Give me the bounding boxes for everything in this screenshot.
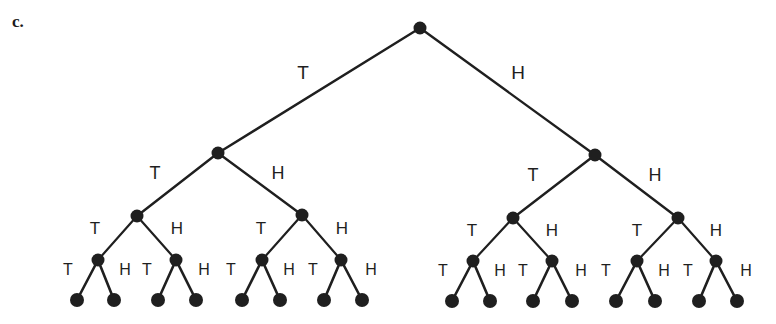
edge-label-h: H: [119, 262, 131, 278]
edge-label-t: T: [601, 263, 611, 279]
tree-edge: [473, 218, 513, 261]
tree-node: [672, 212, 685, 225]
tree-node: [296, 209, 309, 222]
tree-leaf-node: [692, 294, 706, 308]
tree-nodes: [70, 22, 744, 309]
tree-node: [589, 149, 602, 162]
tree-leaf-node: [273, 293, 287, 307]
tree-leaf-node: [355, 293, 369, 307]
tree-edge: [513, 155, 595, 218]
tree-node: [507, 212, 520, 225]
tree-edge: [218, 28, 420, 153]
tree-node: [710, 255, 723, 268]
tree-edge: [98, 216, 137, 260]
edge-label-t: T: [297, 63, 309, 82]
tree-leaf-node: [609, 294, 623, 308]
tree-leaf-node: [317, 293, 331, 307]
tree-node: [414, 22, 427, 35]
tree-edge: [218, 153, 302, 215]
edge-label-h: H: [511, 63, 525, 82]
edge-label-t: T: [528, 166, 539, 184]
tree-leaf-node: [189, 293, 203, 307]
tree-leaf-node: [483, 294, 497, 308]
edge-label-h: H: [171, 220, 183, 237]
edge-label-t: T: [308, 262, 318, 278]
edge-label-h: H: [649, 166, 662, 184]
edge-label-h: H: [198, 262, 210, 278]
tree-edge: [420, 28, 595, 155]
edge-label-t: T: [632, 222, 642, 239]
tree-leaf-node: [235, 293, 249, 307]
edge-label-t: T: [90, 220, 100, 237]
tree-node: [92, 254, 105, 267]
edge-label-t: T: [256, 220, 266, 237]
edge-label-t: T: [467, 222, 477, 239]
tree-leaf-node: [565, 294, 579, 308]
edge-label-t: T: [142, 262, 152, 278]
edge-label-t: T: [63, 262, 73, 278]
edge-label-h: H: [710, 222, 722, 239]
edge-label-t: T: [683, 263, 693, 279]
tree-leaf-node: [70, 293, 84, 307]
edge-label-h: H: [575, 263, 587, 279]
edge-label-h: H: [740, 263, 752, 279]
edge-label-h: H: [336, 220, 348, 237]
tree-leaf-node: [445, 294, 459, 308]
tree-leaf-node: [107, 293, 121, 307]
tree-node: [467, 255, 480, 268]
tree-leaf-node: [648, 294, 662, 308]
edge-label-t: T: [226, 262, 236, 278]
tree-leaf-node: [730, 294, 744, 308]
probability-tree-figure: c. THTHTHTHTHTHTHTHTHTHTHTHTHTHTH: [0, 0, 776, 324]
edge-label-h: H: [546, 222, 558, 239]
edge-label-h: H: [658, 263, 670, 279]
edge-label-h: H: [494, 263, 506, 279]
edge-label-t: T: [518, 263, 528, 279]
tree-node: [170, 254, 183, 267]
tree-edge: [595, 155, 678, 218]
tree-node: [546, 255, 559, 268]
tree-leaf-node: [151, 293, 165, 307]
tree-node: [631, 255, 644, 268]
edge-label-h: H: [365, 262, 377, 278]
tree-node: [131, 210, 144, 223]
edge-label-t: T: [438, 263, 448, 279]
tree-node: [256, 254, 269, 267]
edge-label-h: H: [272, 164, 285, 182]
edge-label-t: T: [150, 164, 161, 182]
edge-label-h: H: [283, 262, 295, 278]
tree-leaf-node: [526, 294, 540, 308]
tree-edge: [637, 218, 678, 261]
tree-node: [212, 147, 225, 160]
tree-edge: [262, 215, 302, 260]
tree-node: [335, 254, 348, 267]
